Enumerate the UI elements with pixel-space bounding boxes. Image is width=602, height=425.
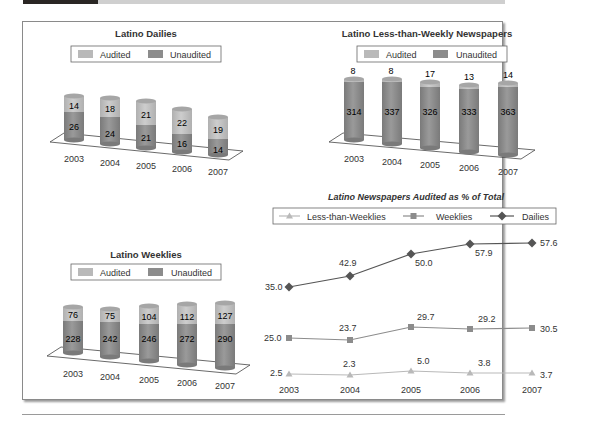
svg-text:26: 26 <box>69 122 79 132</box>
bar-2007: 127 290 <box>215 301 235 371</box>
legend-label-unaudited: Unaudited <box>171 268 212 278</box>
svg-text:2004: 2004 <box>100 372 120 382</box>
legend-label-unaudited: Unaudited <box>170 50 211 60</box>
bar-2003: 14 26 <box>64 94 84 143</box>
chart-latino-less-than-weekly: Latino Less-than-Weekly Newspapers Audit… <box>329 28 535 177</box>
legend-swatch-audited <box>78 268 93 276</box>
svg-text:2006: 2006 <box>177 378 197 388</box>
svg-text:19: 19 <box>213 125 223 135</box>
bar-2006: 13 333 <box>459 72 479 155</box>
bar-2003: 8 314 <box>344 66 364 143</box>
svg-text:2003: 2003 <box>64 154 84 164</box>
svg-text:5.0: 5.0 <box>417 356 430 366</box>
svg-text:2003: 2003 <box>279 385 299 395</box>
legend-label-dailies: Dailies <box>522 212 550 222</box>
legend-swatch-unaudited <box>433 50 448 58</box>
svg-text:112: 112 <box>180 312 194 322</box>
svg-text:57.6: 57.6 <box>540 238 558 248</box>
svg-text:35.0: 35.0 <box>265 282 283 292</box>
chart-audited-percent: Latino Newspapers Audited as % of Total … <box>264 192 558 395</box>
svg-text:3.8: 3.8 <box>478 358 491 368</box>
svg-text:2007: 2007 <box>208 167 228 177</box>
svg-text:21: 21 <box>141 110 151 120</box>
svg-text:2005: 2005 <box>139 375 159 385</box>
legend-label-audited: Audited <box>100 268 131 278</box>
svg-text:337: 337 <box>384 107 399 117</box>
svg-text:333: 333 <box>461 107 476 117</box>
svg-text:50.0: 50.0 <box>415 258 433 268</box>
svg-text:14: 14 <box>503 70 513 80</box>
series-weeklies: 25.0 23.7 29.7 29.2 30.5 <box>264 312 558 343</box>
legend: Audited Unaudited <box>71 264 221 280</box>
svg-text:14: 14 <box>69 101 79 111</box>
svg-text:290: 290 <box>217 334 232 344</box>
series-less-than-weeklies: 2.5 2.3 5.0 3.8 3.7 <box>270 356 553 380</box>
bar-2006: 112 272 <box>177 302 197 368</box>
chart-latino-dailies: Latino Dailies Audited Unaudited 14 26 1… <box>50 28 243 177</box>
chart-title: Latino Dailies <box>115 28 177 39</box>
svg-text:2.3: 2.3 <box>343 359 356 369</box>
legend: Less-than-Weeklies Weeklies Dailies <box>273 208 556 224</box>
bar-2007: 14 363 <box>498 70 518 158</box>
svg-text:2003: 2003 <box>63 369 83 379</box>
svg-text:30.5: 30.5 <box>540 324 558 334</box>
svg-text:16: 16 <box>177 139 187 149</box>
svg-text:29.2: 29.2 <box>478 314 496 324</box>
svg-text:13: 13 <box>464 72 474 82</box>
svg-text:2005: 2005 <box>136 161 156 171</box>
bar-2004: 8 337 <box>382 66 402 147</box>
bar-2006: 22 16 <box>172 107 192 155</box>
svg-text:57.9: 57.9 <box>475 248 493 258</box>
svg-text:8: 8 <box>388 66 393 76</box>
svg-text:42.9: 42.9 <box>339 258 357 268</box>
svg-text:2.5: 2.5 <box>270 368 283 378</box>
svg-text:2004: 2004 <box>382 157 402 167</box>
svg-text:246: 246 <box>141 334 156 344</box>
bar-2004: 75 242 <box>100 307 120 360</box>
svg-text:76: 76 <box>68 310 78 320</box>
bar-2007: 19 14 <box>208 115 228 158</box>
svg-text:2004: 2004 <box>340 385 360 395</box>
svg-text:14: 14 <box>213 145 223 155</box>
svg-text:242: 242 <box>102 334 117 344</box>
svg-text:75: 75 <box>105 311 115 321</box>
svg-text:363: 363 <box>500 107 515 117</box>
chart-title: Latino Less-than-Weekly Newspapers <box>342 28 512 39</box>
bar-2003: 76 228 <box>63 305 83 356</box>
svg-text:2007: 2007 <box>498 167 518 177</box>
legend-label-less-than-weeklies: Less-than-Weeklies <box>307 212 386 222</box>
svg-text:2006: 2006 <box>460 385 480 395</box>
x-axis-labels: 2003 2004 2005 2006 2007 <box>279 385 542 395</box>
legend: Audited Unaudited <box>71 46 221 62</box>
legend-label-weeklies: Weeklies <box>436 212 473 222</box>
svg-text:2005: 2005 <box>420 160 440 170</box>
svg-text:2007: 2007 <box>522 385 542 395</box>
x-axis-labels: 2003 2004 2005 2006 2007 <box>63 369 235 391</box>
charts-canvas: Latino Dailies Audited Unaudited 14 26 1… <box>0 0 602 425</box>
chart-latino-weeklies: Latino Weeklies Audited Unaudited 76 228… <box>47 249 250 391</box>
svg-text:104: 104 <box>141 312 156 322</box>
chart-title: Latino Newspapers Audited as % of Total <box>328 192 504 202</box>
legend-swatch-unaudited <box>148 268 163 276</box>
svg-text:2005: 2005 <box>401 385 421 395</box>
legend: Audited Unaudited <box>357 46 507 62</box>
svg-text:272: 272 <box>179 334 194 344</box>
svg-text:22: 22 <box>177 118 187 128</box>
svg-text:127: 127 <box>217 311 232 321</box>
bar-2004: 18 24 <box>100 96 120 147</box>
legend-label-audited: Audited <box>386 50 417 60</box>
svg-text:25.0: 25.0 <box>264 333 282 343</box>
svg-text:2003: 2003 <box>344 154 364 164</box>
legend-label-audited: Audited <box>100 50 131 60</box>
legend-label-unaudited: Unaudited <box>456 50 497 60</box>
square-marker-icon <box>411 213 417 219</box>
svg-text:2007: 2007 <box>215 381 235 391</box>
bar-2005: 17 326 <box>420 69 440 151</box>
legend-swatch-audited <box>364 50 379 58</box>
svg-text:21: 21 <box>141 133 151 143</box>
svg-text:29.7: 29.7 <box>417 312 435 322</box>
svg-text:2006: 2006 <box>172 164 192 174</box>
svg-text:8: 8 <box>350 66 355 76</box>
bar-2005: 104 246 <box>139 304 159 364</box>
svg-text:18: 18 <box>105 104 115 114</box>
